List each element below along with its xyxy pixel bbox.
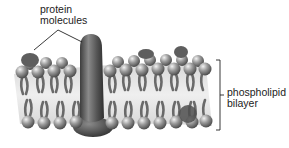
transmembrane-protein [80, 34, 104, 122]
bilayer-bracket [216, 60, 224, 130]
surface-protein-right [174, 46, 188, 58]
membrane-diagram: protein molecules phospholipid bilayer [0, 0, 289, 148]
protein-molecules-label: protein molecules [40, 4, 87, 26]
surface-protein-left [21, 53, 39, 67]
protein-pointer-lines [34, 30, 82, 50]
bilayer-label-line2: bilayer [227, 98, 286, 109]
embedded-protein-lower [179, 105, 197, 123]
surface-protein-middle [138, 49, 154, 59]
protein-label-line2: molecules [40, 15, 87, 26]
phospholipid-bilayer-label: phospholipid bilayer [227, 87, 286, 109]
